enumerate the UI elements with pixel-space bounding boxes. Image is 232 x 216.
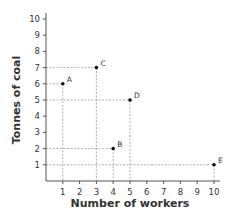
y-tick-label: 9	[35, 30, 40, 40]
point-label: D	[134, 91, 140, 100]
y-tick-label: 3	[35, 127, 40, 137]
x-tick-label: 5	[127, 187, 132, 197]
y-axis-label: Tonnes of coal	[10, 56, 23, 145]
data-point-c	[95, 66, 99, 70]
x-tick-label: 9	[194, 187, 199, 197]
data-point-e	[212, 163, 216, 167]
x-tick-label: 1	[60, 187, 65, 197]
x-tick-label: 10	[209, 187, 220, 197]
tick-labels: 1234567891012345678910	[29, 14, 219, 197]
guide-lines	[46, 68, 214, 181]
y-tick-label: 8	[35, 46, 40, 56]
x-tick-label: 2	[77, 187, 82, 197]
data-points: ABCDE	[61, 59, 223, 167]
x-axis-label: Number of workers	[71, 197, 190, 210]
y-tick-label: 2	[35, 144, 40, 154]
x-tick-label: 4	[110, 187, 115, 197]
y-tick-label: 4	[35, 111, 40, 121]
x-tick-label: 3	[94, 187, 99, 197]
x-tick-label: 6	[144, 187, 149, 197]
data-point-d	[128, 98, 132, 102]
x-tick-label: 8	[178, 187, 183, 197]
x-tick-label: 7	[161, 187, 166, 197]
point-label: C	[100, 59, 105, 68]
scatter-chart: 1234567891012345678910 ABCDE Number of w…	[0, 0, 232, 216]
data-point-b	[111, 147, 115, 151]
point-label: E	[218, 156, 223, 165]
axes	[43, 13, 220, 184]
chart-canvas: 1234567891012345678910 ABCDE Number of w…	[0, 0, 232, 216]
y-tick-label: 7	[35, 63, 40, 73]
point-label: B	[117, 140, 122, 149]
y-tick-label: 6	[35, 79, 40, 89]
point-label: A	[67, 75, 73, 84]
y-tick-label: 5	[35, 95, 40, 105]
y-tick-label: 1	[35, 160, 40, 170]
data-point-a	[61, 82, 65, 86]
y-tick-label: 10	[29, 14, 40, 24]
